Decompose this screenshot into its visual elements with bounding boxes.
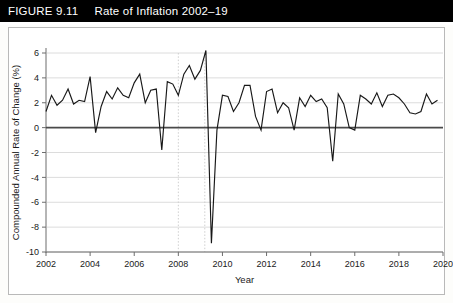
y-tick-label: 0 — [34, 123, 39, 133]
inflation-line-chart: 6420-2-4-6-8-10 200220042006200820102012… — [0, 22, 453, 303]
y-tick-label: 2 — [34, 98, 39, 108]
x-tick-label: 2014 — [301, 259, 321, 269]
y-axis-title: Compounded Annual Rate of Change (%) — [10, 65, 21, 240]
figure-title-bar: FIGURE 9.11 Rate of Inflation 2002–19 — [0, 0, 453, 22]
y-tick-label: -2 — [31, 148, 39, 158]
y-tick-label: -6 — [31, 197, 39, 207]
gridlines — [47, 53, 443, 252]
y-tick-label: -10 — [26, 247, 39, 257]
x-tick-label: 2004 — [80, 259, 100, 269]
y-tick-label: 4 — [34, 73, 39, 83]
x-tick-label: 2006 — [124, 259, 144, 269]
x-axis-title: Year — [235, 274, 254, 285]
x-tick-label: 2010 — [212, 259, 232, 269]
y-tick-label: -8 — [31, 222, 39, 232]
y-axis-ticks: 6420-2-4-6-8-10 — [26, 48, 46, 257]
figure-number: FIGURE 9.11 — [8, 5, 78, 17]
x-tick-label: 2012 — [257, 259, 277, 269]
x-tick-label: 2002 — [36, 259, 56, 269]
x-tick-label: 2008 — [168, 259, 188, 269]
chart-area: 6420-2-4-6-8-10 200220042006200820102012… — [0, 22, 453, 303]
y-tick-label: 6 — [34, 48, 39, 58]
x-tick-label: 2020 — [433, 259, 453, 269]
figure-title: Rate of Inflation 2002–19 — [94, 5, 228, 17]
y-tick-label: -4 — [31, 173, 39, 183]
figure-container: FIGURE 9.11 Rate of Inflation 2002–19 64… — [0, 0, 453, 303]
x-tick-label: 2016 — [345, 259, 365, 269]
x-axis-ticks: 2002200420062008201020122014201620182020 — [36, 252, 453, 269]
x-tick-label: 2018 — [389, 259, 409, 269]
inflation-series-line — [46, 51, 437, 244]
